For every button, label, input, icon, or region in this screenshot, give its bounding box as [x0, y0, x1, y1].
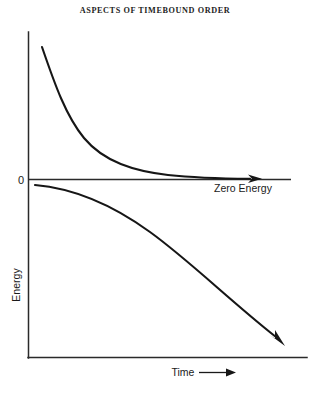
- figure-container: ASPECTS OF TIMEBOUND ORDER 0 Zero Energy…: [0, 0, 311, 393]
- chart-title: ASPECTS OF TIMEBOUND ORDER: [80, 6, 231, 15]
- x-axis-label: Time: [172, 366, 195, 378]
- zero-energy-annotation: Zero Energy: [214, 182, 273, 194]
- y-axis-label: Energy: [10, 268, 22, 302]
- chart-canvas: ASPECTS OF TIMEBOUND ORDER 0 Zero Energy…: [0, 0, 311, 393]
- zero-tick-label: 0: [18, 174, 24, 186]
